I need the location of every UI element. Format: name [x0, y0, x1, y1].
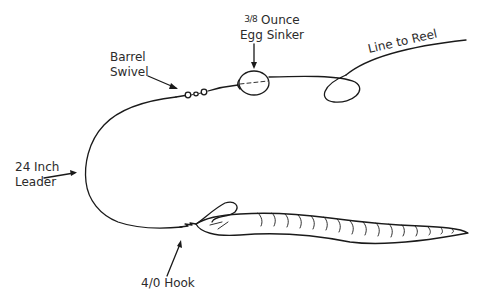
leader-line: [86, 97, 182, 228]
leader-label-line2: Leader: [15, 175, 59, 190]
sinker-label-line2: Egg Sinker: [240, 28, 304, 43]
barrel-swivel-icon: [176, 89, 207, 98]
leader-label: 24 Inch Leader: [15, 160, 59, 190]
fishing-rig-diagram: 3/8 Ounce Egg Sinker Barrel Swivel Line …: [0, 0, 484, 306]
line-curl-loop: [269, 75, 360, 102]
sinker-label-line1: 3/8 Ounce: [240, 12, 304, 28]
leader-label-line1: 24 Inch: [15, 160, 59, 175]
bait-worm-icon: [196, 213, 468, 244]
hook-label: 4/0 Hook: [141, 276, 195, 291]
swivel-label: Barrel Swivel: [110, 50, 149, 80]
sinker-label-ounce: Ounce: [257, 13, 299, 27]
swivel-label-line1: Barrel: [110, 50, 149, 65]
sinker-arrow-icon: [251, 44, 257, 69]
sinker-weight-fraction: 3/8: [244, 14, 257, 24]
main-line-segment: [208, 85, 238, 91]
swivel-arrow-icon: [148, 76, 178, 89]
hook-arrow-icon: [167, 240, 182, 276]
egg-sinker-icon: [238, 71, 269, 95]
swivel-label-line2: Swivel: [110, 65, 149, 80]
hook-knot: [180, 223, 196, 227]
sinker-label: 3/8 Ounce Egg Sinker: [240, 12, 304, 43]
